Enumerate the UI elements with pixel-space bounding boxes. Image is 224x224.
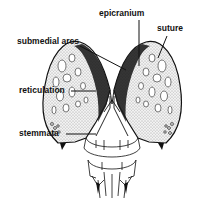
mouthparts [84, 138, 140, 198]
label-epicranium: epicranium [99, 9, 144, 18]
right-head-lobe [114, 41, 181, 150]
label-stemmata: stemmata [19, 129, 59, 138]
head-capsule-illustration [0, 0, 224, 224]
label-reticulation: reticulation [19, 86, 65, 95]
label-submedial-arcs: submedial arcs [17, 37, 79, 46]
label-suture: suture [157, 24, 183, 33]
